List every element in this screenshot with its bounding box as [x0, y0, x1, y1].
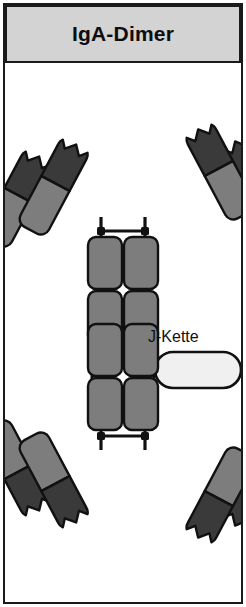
fab-arm-top-left [5, 137, 90, 250]
fab-arm-top-right [184, 122, 241, 235]
iga-dimer-figure: IgA-Dimer [0, 0, 246, 607]
fab-arm-bottom-right [184, 432, 241, 545]
monomer-top [5, 122, 241, 343]
page-title: IgA-Dimer [72, 22, 174, 46]
title-bar: IgA-Dimer [5, 5, 241, 63]
hinge-bottom [101, 430, 145, 450]
diagram-canvas [5, 65, 241, 602]
j-chain-label: J-Kette [148, 328, 199, 346]
hinge-top [101, 217, 145, 237]
fab-arm-bottom-left [5, 417, 90, 530]
j-chain-shape [155, 352, 241, 388]
iga-dimer-svg [5, 65, 241, 602]
